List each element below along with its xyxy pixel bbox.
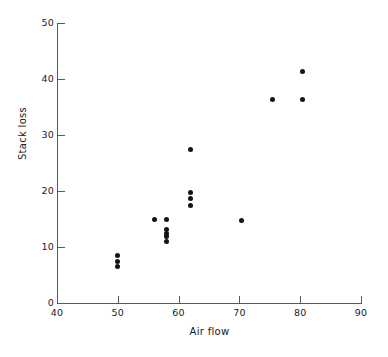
y-tick-mark <box>58 303 65 304</box>
x-tick-mark <box>118 296 119 303</box>
y-tick-mark <box>58 79 65 80</box>
x-tick-mark <box>361 296 362 303</box>
data-point <box>115 264 120 269</box>
y-tick-mark <box>58 135 65 136</box>
x-tick-label: 70 <box>219 307 259 318</box>
data-point <box>188 196 193 201</box>
data-point <box>188 203 193 208</box>
y-tick-label: 40 <box>14 73 54 84</box>
data-point <box>300 97 305 102</box>
x-tick-mark <box>239 296 240 303</box>
y-tick-mark <box>58 247 65 248</box>
y-axis-line <box>57 23 58 304</box>
data-point <box>164 239 169 244</box>
x-axis-title: Air flow <box>57 326 362 337</box>
x-tick-label: 60 <box>159 307 199 318</box>
data-point <box>239 218 244 223</box>
y-tick-mark <box>58 191 65 192</box>
x-tick-label: 50 <box>98 307 138 318</box>
y-tick-label: 50 <box>14 17 54 28</box>
data-point <box>115 253 120 258</box>
data-point <box>270 97 275 102</box>
y-tick-label: 10 <box>14 241 54 252</box>
data-point <box>164 227 169 232</box>
x-tick-mark <box>179 296 180 303</box>
data-point <box>188 147 193 152</box>
y-tick-label: 20 <box>14 185 54 196</box>
x-axis-line <box>57 303 362 304</box>
y-axis-title: Stack loss <box>17 84 28 184</box>
x-tick-mark <box>300 296 301 303</box>
data-point <box>164 217 169 222</box>
x-tick-label: 80 <box>280 307 320 318</box>
x-tick-label: 90 <box>341 307 381 318</box>
data-point <box>188 190 193 195</box>
y-tick-mark <box>58 23 65 24</box>
scatter-plot-figure: 01020304050 405060708090 Air flow Stack … <box>0 0 388 357</box>
data-point <box>300 69 305 74</box>
x-tick-label: 40 <box>37 307 77 318</box>
data-point <box>115 259 120 264</box>
data-point <box>152 217 157 222</box>
